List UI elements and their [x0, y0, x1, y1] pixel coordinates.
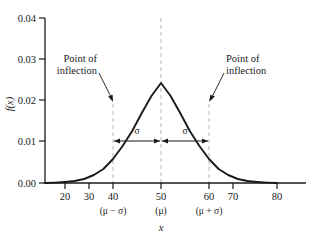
chart-svg: 0.00 0.01 0.02 0.03 0.04 20 30 40 50 60 …: [0, 0, 323, 235]
right-sigma-label: σ: [182, 126, 187, 136]
left-inflection-text-line1: Point of: [63, 53, 97, 64]
y-axis-title: f(x): [4, 96, 16, 111]
x-sub-label-mu: (μ): [155, 206, 166, 217]
y-tick-label-0: 0.00: [18, 178, 36, 189]
y-tick-label-1: 0.01: [18, 136, 36, 147]
x-tick-label-80: 80: [272, 191, 283, 202]
y-tick-label-4: 0.04: [18, 13, 37, 24]
left-inflection-text-line2: inflection: [57, 65, 98, 76]
x-tick-label-20: 20: [60, 191, 71, 202]
y-tick-label-2: 0.02: [18, 95, 36, 106]
right-inflection-text-line1: Point of: [226, 53, 260, 64]
x-sub-labels: (μ − σ) (μ) (μ + σ): [100, 206, 223, 217]
right-inflection-text-line2: inflection: [226, 65, 267, 76]
x-tick-label-50: 50: [156, 191, 167, 202]
x-tick-label-60: 60: [204, 191, 215, 202]
y-tick-label-3: 0.03: [18, 54, 36, 65]
normal-distribution-chart: 0.00 0.01 0.02 0.03 0.04 20 30 40 50 60 …: [0, 0, 323, 235]
x-sub-label-mu-minus-sigma: (μ − σ): [100, 206, 127, 217]
x-tick-label-70: 70: [228, 191, 239, 202]
left-sigma-label: σ: [134, 126, 139, 136]
x-tick-label-30: 30: [84, 191, 95, 202]
x-tick-label-40: 40: [108, 191, 119, 202]
x-sub-label-mu-plus-sigma: (μ + σ): [196, 206, 223, 217]
x-axis-title: x: [158, 222, 164, 233]
